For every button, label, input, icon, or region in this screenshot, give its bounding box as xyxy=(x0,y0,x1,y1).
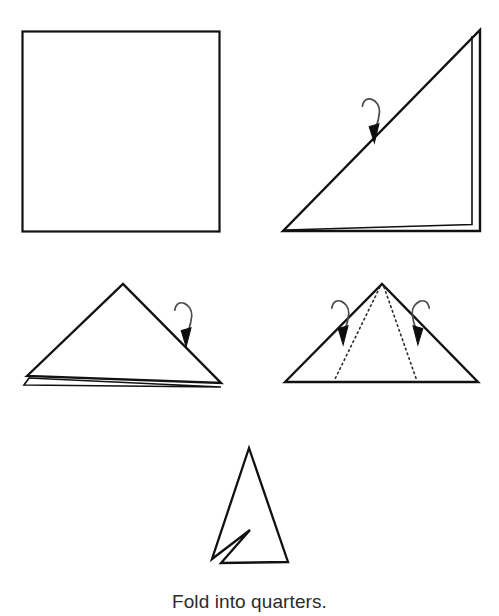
step-5-folded-result-figure xyxy=(212,448,288,563)
isosceles-triangle-outline xyxy=(27,284,221,383)
origami-diagram-canvas xyxy=(0,0,499,616)
step-3-isosceles-triangle-figure xyxy=(24,284,221,387)
square-sheet-outline xyxy=(23,32,220,232)
right-triangle-outline xyxy=(283,30,480,231)
figure-caption: Fold into quarters. xyxy=(0,591,499,613)
step-1-square-figure xyxy=(23,32,220,232)
creased-triangle-outline xyxy=(285,284,478,382)
step-2-right-triangle-figure xyxy=(283,30,480,231)
narrow-kite-outline xyxy=(212,448,288,563)
step-4-creased-triangle-figure xyxy=(285,284,478,382)
